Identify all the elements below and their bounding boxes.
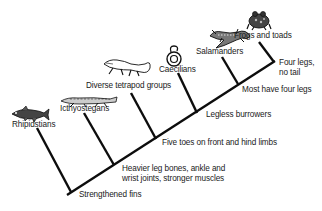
branch-frogs <box>259 42 274 62</box>
branch-caecilians <box>178 73 197 113</box>
taxon-label-caecilians: Caecilians <box>159 65 196 75</box>
taxon-label-rhipidstians: Rhipidstians <box>12 120 55 130</box>
trait-label-legless-burrowers: Legless burrowers <box>206 110 271 120</box>
taxon-label-salamanders: Salamanders <box>196 47 243 57</box>
trait-label-heavier-leg-bones: Heavier leg bones, ankle and wrist joint… <box>122 164 225 183</box>
cladogram: Rhipidstians Icthyostegans Diverse tetra… <box>0 0 322 211</box>
trait-label-four-legs-no-tail: Four legs, no tail <box>279 58 314 77</box>
branch-salamanders <box>222 57 238 84</box>
branch-diverse-tetrapods <box>131 93 156 139</box>
taxon-label-diverse-tetrapod-groups: Diverse tetrapod groups <box>86 81 171 91</box>
trait-label-most-have-four-legs: Most have four legs <box>242 85 312 95</box>
trait-label-strengthened-fins: Strengthened fins <box>79 190 141 200</box>
branch-icthyostegans <box>84 113 114 165</box>
frog-icon <box>246 9 272 31</box>
branch-rhipidstians <box>37 128 71 192</box>
taxon-label-icthyostegans: Icthyostegans <box>60 104 109 114</box>
trait-label-five-toes: Five toes on front and hind limbs <box>162 138 277 148</box>
tetrapod-reptile-icon <box>103 56 153 78</box>
taxon-label-frogs-and-toads: Frogs and toads <box>234 31 292 41</box>
